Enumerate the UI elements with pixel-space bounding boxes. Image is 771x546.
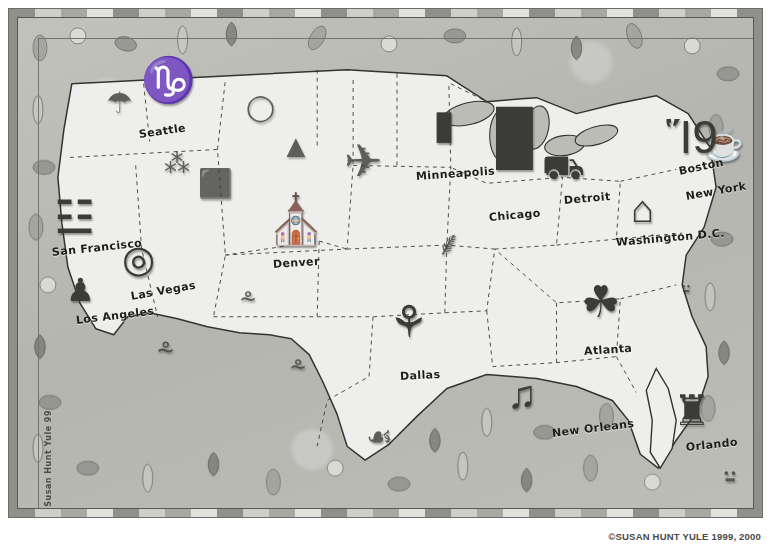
map-poster: ♑Seattle☳San Francisco♟Los Angeles◎Las V…: [0, 0, 771, 546]
us-capitol-icon: ⌂: [631, 190, 654, 228]
jazz-riverboat-icon: ♫: [507, 374, 537, 414]
roulette-wheel-icon: ◎: [122, 240, 155, 278]
evergreen-trees-icon: ▲: [280, 130, 312, 162]
wheat-sheaf-icon: ⸙: [436, 226, 462, 260]
city-label-dallas[interactable]: Dallas: [400, 368, 441, 383]
cactus-mid-icon: ⸛: [240, 286, 256, 314]
fairytale-castle-icon: ♜: [673, 390, 711, 432]
berry-basket-icon: ⁂: [164, 150, 190, 176]
armadillo-icon: ☙: [366, 422, 393, 452]
peach-city-icon: ☘: [581, 280, 620, 324]
mushroom-icon: ☂: [106, 88, 133, 118]
cactus-right-icon: ⸛: [290, 354, 306, 382]
sears-tower-icon: █: [496, 110, 533, 162]
golden-gate-bridge-icon: ☳: [54, 194, 95, 240]
potato-icon: ◯: [246, 94, 275, 120]
map-plate: ♑Seattle☳San Francisco♟Los Angeles◎Las V…: [17, 17, 754, 509]
space-needle-icon: ♑: [141, 58, 196, 102]
state-capitol-icon: ⛪: [266, 196, 326, 244]
artist-signature: Susan Hunt Yule 99: [44, 410, 53, 507]
palm-trees-icon: ⸚: [724, 458, 736, 496]
tower-icon: ▮: [433, 104, 455, 144]
automobile-icon: ⛟: [542, 150, 585, 184]
salt-shaker-icon: ⬛: [198, 170, 233, 198]
reunion-tower-icon: ⚘: [389, 300, 428, 344]
skyscrapers-icon: Ἵ9: [666, 114, 718, 160]
copyright-notice: ©SUSAN HUNT YULE 1999, 2000: [608, 531, 761, 542]
florida-palm-icon: ⸚: [682, 276, 690, 302]
airplane-icon: ✈: [344, 138, 383, 184]
film-director-icon: ♟: [66, 274, 95, 306]
cactus-left-icon: ⸛: [157, 336, 174, 366]
